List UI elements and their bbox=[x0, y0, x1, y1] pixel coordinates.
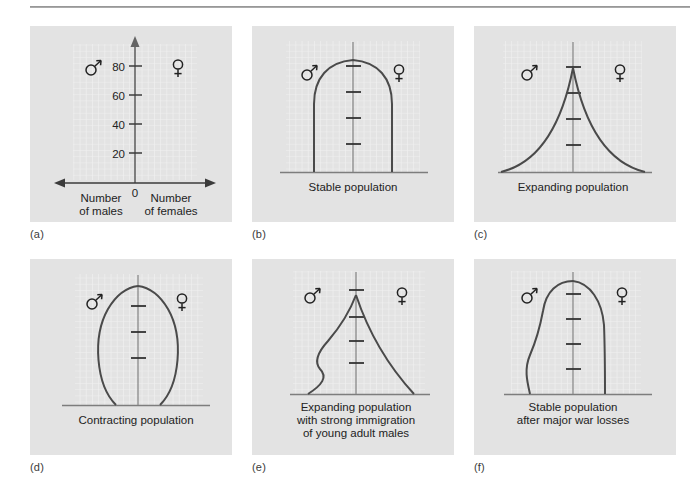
panel-f-caption-line1: Stable population bbox=[529, 401, 618, 413]
panel-e-diagram: Expanding population with strong immigra… bbox=[252, 259, 454, 455]
panel-f-caption-line2: after major war losses bbox=[517, 414, 630, 426]
panel-c: Expanding population bbox=[474, 26, 676, 222]
panel-a-origin-label: 0 bbox=[132, 187, 138, 199]
panel-e-caption-line1: Expanding population bbox=[301, 401, 412, 413]
panel-a-ytick-20: 20 bbox=[112, 148, 125, 160]
panel-b: Stable population bbox=[252, 26, 454, 222]
panel-a-ytick-80: 80 bbox=[112, 61, 125, 73]
figure-panel-grid: 80 60 40 20 0 Number of males Number of bbox=[0, 26, 696, 496]
panel-c-diagram: Expanding population bbox=[474, 26, 676, 222]
panel-a-ytick-60: 60 bbox=[112, 90, 125, 102]
panel-label-e: (e) bbox=[252, 461, 266, 473]
top-divider-rule bbox=[30, 6, 690, 8]
panel-e-caption-line2: with strong immigration bbox=[296, 414, 415, 426]
panel-label-d: (d) bbox=[30, 461, 44, 473]
panel-label-b: (b) bbox=[252, 228, 266, 240]
panel-c-caption-line1: Expanding population bbox=[518, 181, 629, 193]
panel-b-caption-line1: Stable population bbox=[309, 181, 398, 193]
panel-e-caption-line3: of young adult males bbox=[303, 427, 409, 439]
panel-label-c: (c) bbox=[474, 228, 487, 240]
panel-d: Contracting population bbox=[30, 259, 232, 455]
panel-a-right-axis-label-line1: Number bbox=[151, 192, 192, 204]
panel-b-diagram: Stable population bbox=[252, 26, 454, 222]
panel-a: 80 60 40 20 0 Number of males Number of bbox=[30, 26, 232, 222]
panel-label-f: (f) bbox=[474, 461, 485, 473]
panel-f: Stable population after major war losses bbox=[474, 259, 676, 455]
panel-a-right-axis-label-line2: of females bbox=[144, 205, 197, 217]
panel-d-diagram: Contracting population bbox=[30, 259, 232, 455]
panel-label-a: (a) bbox=[30, 228, 44, 240]
panel-e: Expanding population with strong immigra… bbox=[252, 259, 454, 455]
panel-d-caption-line1: Contracting population bbox=[78, 414, 193, 426]
panel-a-left-axis-label-line1: Number bbox=[81, 192, 122, 204]
panel-a-ytick-40: 40 bbox=[112, 119, 125, 131]
panel-f-diagram: Stable population after major war losses bbox=[474, 259, 676, 455]
panel-a-diagram: 80 60 40 20 0 Number of males Number of bbox=[30, 26, 232, 222]
panel-a-left-axis-label-line2: of males bbox=[79, 205, 123, 217]
